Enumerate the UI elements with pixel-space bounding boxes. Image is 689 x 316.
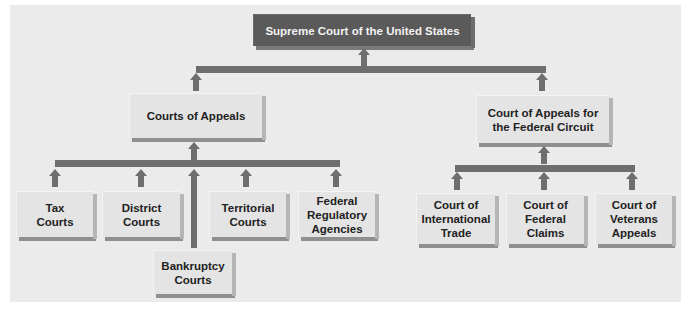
supreme-court-label: Supreme Court of the United States — [265, 24, 459, 38]
arrow-up-icon — [538, 172, 550, 190]
veterans-appeals-box: Court of Veterans Appeals — [595, 193, 672, 244]
tax-courts-label: Tax Courts — [30, 201, 80, 229]
bankruptcy-courts-label: Bankruptcy Courts — [158, 259, 228, 287]
district-courts-label: District Courts — [117, 201, 167, 229]
federal-regulatory-agencies-label: Federal Regulatory Agencies — [307, 194, 367, 236]
connector-federal-circuit-children — [455, 165, 635, 172]
arrow-up-icon — [49, 169, 61, 187]
courts-of-appeals-label: Courts of Appeals — [147, 109, 246, 123]
veterans-appeals-label: Court of Veterans Appeals — [605, 198, 663, 240]
federal-circuit-label: Court of Appeals for the Federal Circuit — [487, 106, 599, 134]
territorial-courts-label: Territorial Courts — [218, 201, 278, 229]
federal-claims-label: Court of Federal Claims — [518, 198, 573, 240]
federal-circuit-box: Court of Appeals for the Federal Circuit — [476, 95, 609, 143]
connector-bankruptcy — [191, 180, 197, 248]
connector-appeals-children — [55, 160, 340, 167]
territorial-courts-box: Territorial Courts — [209, 191, 286, 237]
federal-regulatory-agencies-box: Federal Regulatory Agencies — [298, 191, 375, 237]
arrow-up-icon — [358, 48, 370, 66]
international-trade-label: Court of International Trade — [421, 198, 491, 240]
arrow-up-icon — [190, 73, 202, 91]
arrow-up-icon — [135, 169, 147, 187]
district-courts-box: District Courts — [102, 191, 180, 237]
arrow-up-icon — [536, 73, 548, 91]
diagram-background — [10, 5, 681, 302]
arrow-up-icon — [188, 142, 200, 160]
arrow-up-icon — [330, 169, 342, 187]
international-trade-box: Court of International Trade — [416, 193, 495, 244]
tax-courts-box: Tax Courts — [16, 191, 93, 237]
federal-claims-box: Court of Federal Claims — [506, 193, 584, 244]
arrow-up-icon — [451, 172, 463, 190]
bankruptcy-courts-box: Bankruptcy Courts — [153, 250, 232, 294]
arrow-up-icon — [538, 146, 550, 164]
arrow-up-icon — [626, 172, 638, 190]
arrow-up-icon — [240, 169, 252, 187]
courts-of-appeals-box: Courts of Appeals — [129, 93, 262, 138]
supreme-court-box: Supreme Court of the United States — [253, 14, 471, 46]
connector-level1 — [196, 66, 546, 73]
